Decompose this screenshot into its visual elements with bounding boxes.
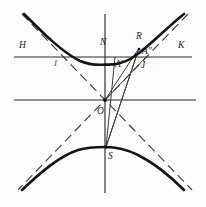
point-s-dot <box>104 145 107 148</box>
label-j: J <box>141 60 146 70</box>
label-o: O <box>97 106 104 116</box>
figure-canvas: H I N R A″ A′ J K O S <box>0 0 206 207</box>
hyperbola-figure: H I N R A″ A′ J K O S <box>0 0 206 207</box>
lower-hyperbola-branch <box>22 147 184 190</box>
label-n: N <box>99 37 107 47</box>
label-k: K <box>177 40 185 50</box>
label-h: H <box>18 40 27 50</box>
point-r-dot <box>138 48 141 51</box>
label-s: S <box>108 151 113 161</box>
label-a-prime: A′ <box>114 59 124 69</box>
point-o-dot <box>103 98 107 102</box>
label-a-double-prime: A″ <box>141 46 153 56</box>
label-r: R <box>135 31 142 41</box>
asymptote-up-right-line <box>22 14 192 190</box>
label-i: I <box>53 58 58 68</box>
